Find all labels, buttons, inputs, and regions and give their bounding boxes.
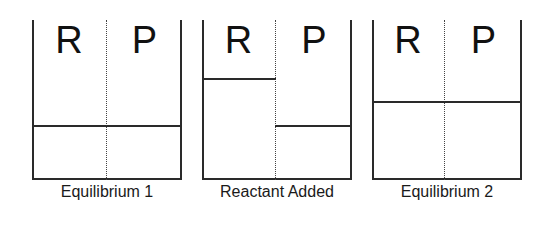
container-floor <box>32 178 182 180</box>
reactant-label: R <box>202 20 275 60</box>
reactant-label: R <box>372 20 444 60</box>
panel-equilibrium-2: R P <box>372 20 522 180</box>
product-level-line <box>444 101 522 103</box>
panel-reactant-added: R P <box>202 20 352 180</box>
caption-reactant-added: Reactant Added <box>202 182 352 202</box>
container-floor <box>202 178 352 180</box>
product-level-line <box>275 125 352 127</box>
reactant-level-line <box>202 78 276 80</box>
container-floor <box>372 178 522 180</box>
caption-equilibrium-2: Equilibrium 2 <box>372 182 522 202</box>
product-label: P <box>107 20 182 60</box>
reactant-label: R <box>32 20 106 60</box>
reactant-level-line <box>372 101 445 103</box>
product-level-line <box>106 125 182 127</box>
caption-equilibrium-1: Equilibrium 1 <box>32 182 182 202</box>
product-label: P <box>276 20 352 60</box>
reactant-level-line <box>32 125 107 127</box>
product-label: P <box>445 20 522 60</box>
panel-equilibrium-1: R P <box>32 20 182 180</box>
